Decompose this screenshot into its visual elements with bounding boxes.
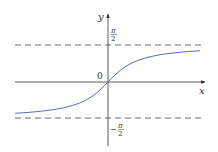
svg-text:π: π <box>117 122 123 130</box>
arctan-chart: y x 0 π 2 − π 2 <box>0 0 218 152</box>
lower-asymptote-label: − π 2 <box>110 122 124 138</box>
svg-text:π: π <box>110 27 116 35</box>
svg-text:−: − <box>110 125 117 134</box>
origin-label: 0 <box>97 71 103 81</box>
upper-asymptote-label: π 2 <box>110 27 117 43</box>
svg-text:2: 2 <box>111 35 115 43</box>
x-axis-label: x <box>199 85 205 96</box>
svg-text:2: 2 <box>118 130 122 138</box>
y-axis-label: y <box>97 11 104 22</box>
